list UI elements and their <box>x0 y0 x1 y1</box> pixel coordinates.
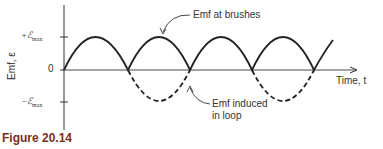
y-tick-pos-max: +ℰmax <box>21 30 42 42</box>
emf-brushes-curve <box>64 37 333 70</box>
y-tick-neg-max: −ℰmax <box>21 96 42 108</box>
figure-caption: Figure 20.14 <box>2 131 72 145</box>
emf-loop-curve <box>128 70 314 101</box>
y-tick-zero: 0 <box>48 63 54 74</box>
annotation-emf-brushes: Emf at brushes <box>193 9 260 20</box>
annotation-emf-loop-1: Emf induced <box>212 98 268 109</box>
x-axis-label: Time, t <box>336 75 366 86</box>
annotation-emf-loop-2: in loop <box>212 110 241 121</box>
emf-diagram <box>0 0 383 149</box>
y-axis-label: Emf, ε <box>6 52 17 80</box>
